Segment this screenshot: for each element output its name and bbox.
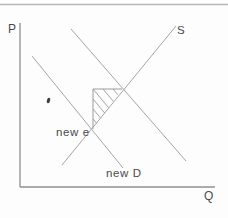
new-equilibrium-label: new e bbox=[56, 126, 90, 138]
supply-line-label: S bbox=[177, 24, 185, 36]
new-demand-line-label: new D bbox=[106, 167, 142, 179]
price-axis-label: P bbox=[8, 22, 17, 36]
supply-demand-diagram: PQSnew Dnew e bbox=[0, 0, 228, 218]
quantity-axis-label: Q bbox=[204, 189, 214, 203]
figure-background bbox=[0, 0, 228, 218]
